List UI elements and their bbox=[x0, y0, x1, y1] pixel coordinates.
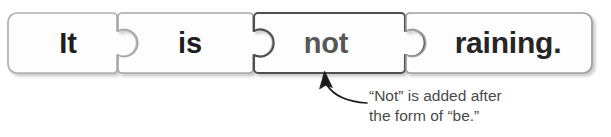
piece-label-it: It bbox=[59, 29, 76, 58]
piece-label-is: is bbox=[178, 29, 202, 58]
callout-leader-line bbox=[327, 85, 367, 103]
callout-text-line-1: “Not” is added after bbox=[369, 86, 599, 106]
piece-label-not: not bbox=[304, 29, 349, 58]
callout-text: “Not” is added after the form of “be.” bbox=[369, 86, 599, 126]
puzzle-diagram: It is not raining. “Not” is added after … bbox=[0, 0, 611, 137]
callout-text-line-2: the form of “be.” bbox=[369, 106, 599, 126]
piece-label-raining: raining. bbox=[455, 28, 562, 58]
